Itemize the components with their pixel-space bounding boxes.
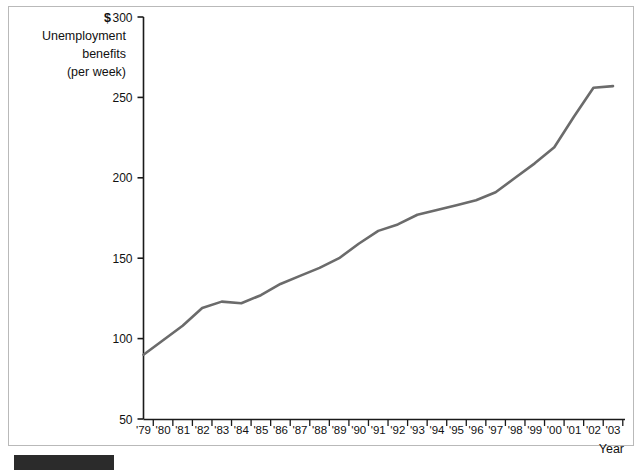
x-tick-label: '87 — [293, 424, 308, 436]
x-tick-label: '02 — [586, 424, 601, 436]
y-tick-label: 150 — [112, 252, 132, 266]
y-axis-title-line-1: Unemployment — [42, 29, 127, 43]
x-tick-label: '92 — [390, 424, 405, 436]
x-tick-label: '82 — [195, 424, 210, 436]
y-tick-label: 250 — [112, 91, 132, 105]
x-tick-label: '98 — [508, 424, 523, 436]
x-tick-label: '89 — [332, 424, 347, 436]
x-tick-label: '79 — [136, 424, 151, 436]
chart-canvas: 30025020015010050 '79'80'81'82'83'84'85'… — [0, 0, 642, 470]
x-tick-label: '00 — [547, 424, 562, 436]
x-tick-label: '88 — [312, 424, 327, 436]
figure-caption-bar — [14, 455, 114, 470]
x-tick-label: '86 — [273, 424, 288, 436]
y-axis-title-line-3: (per week) — [67, 65, 126, 79]
x-tick-label: '90 — [351, 424, 366, 436]
x-tick-label: '99 — [527, 424, 542, 436]
x-tick-label: '94 — [429, 424, 445, 436]
x-tick-label: '97 — [488, 424, 503, 436]
x-axis-ticks: '79'80'81'82'83'84'85'86'87'88'89'90'91'… — [136, 419, 623, 436]
x-tick-label: '03 — [606, 424, 621, 436]
y-axis-title: Unemployment benefits (per week) — [42, 29, 127, 79]
x-tick-label: '96 — [469, 424, 484, 436]
x-tick-label: '84 — [234, 424, 250, 436]
x-tick-label: '93 — [410, 424, 425, 436]
y-tick-label: 50 — [119, 413, 133, 427]
x-tick-label: '81 — [175, 424, 190, 436]
x-tick-label: '95 — [449, 424, 464, 436]
data-series-line — [144, 86, 614, 355]
x-tick-label: '85 — [253, 424, 268, 436]
y-tick-label: 100 — [112, 332, 132, 346]
y-tick-label: 200 — [112, 171, 132, 185]
x-tick-label: '01 — [566, 424, 581, 436]
y-axis-title-line-2: benefits — [82, 47, 126, 61]
y-tick-label: 300 — [112, 11, 132, 25]
currency-symbol: $ — [104, 11, 111, 25]
x-tick-label: '80 — [156, 424, 171, 436]
x-tick-label: '91 — [371, 424, 386, 436]
line-chart: 30025020015010050 '79'80'81'82'83'84'85'… — [0, 0, 642, 470]
x-axis-title: Year — [599, 442, 624, 456]
x-tick-label: '83 — [214, 424, 229, 436]
figure-page: 30025020015010050 '79'80'81'82'83'84'85'… — [0, 0, 642, 470]
